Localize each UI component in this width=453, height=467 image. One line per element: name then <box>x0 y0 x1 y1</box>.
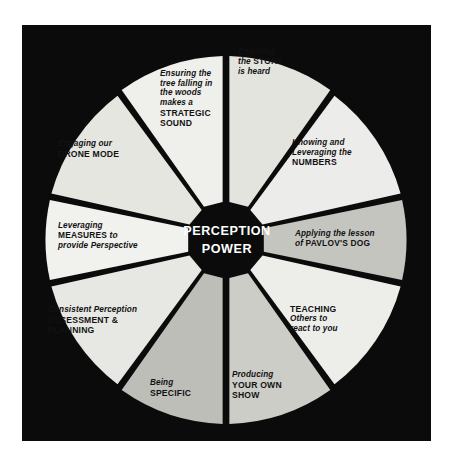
label-assessment-planning-line2: ASSESSMENT & <box>48 315 158 325</box>
label-specific-line1: Being <box>150 378 224 388</box>
label-strategic-sound-line1: Ensuring the <box>160 69 236 79</box>
label-your-own-show-line1: Producing <box>232 370 308 380</box>
label-teaching-line1: TEACHING <box>290 304 370 314</box>
label-assessment-planning-line1: Consistent Perception <box>48 305 158 315</box>
label-story[interactable]: Ensuring the STORY is heard <box>238 47 316 76</box>
perception-power-wheel: PERCEPTION POWER Ensuring the STORY is h… <box>0 0 453 467</box>
label-numbers[interactable]: Knowing and Leveraging the NUMBERS <box>292 138 382 167</box>
label-measures[interactable]: Leveraging MEASURES to provide Perspecti… <box>58 221 168 250</box>
label-drone-mode-line1: Engaging our <box>58 139 152 149</box>
diagram-canvas: PERCEPTION POWER Ensuring the STORY is h… <box>0 0 453 467</box>
label-drone-mode[interactable]: Engaging our DRONE MODE <box>58 139 152 159</box>
label-strategic-sound-line4: makes a <box>160 98 236 108</box>
label-specific-line2: SPECIFIC <box>150 388 224 398</box>
label-numbers-line3: NUMBERS <box>292 157 382 167</box>
label-strategic-sound-line6: SOUND <box>160 118 236 128</box>
label-drone-mode-line2: DRONE MODE <box>58 149 152 159</box>
label-your-own-show-line2: YOUR OWN <box>232 380 308 390</box>
wheel-center-title: PERCEPTION POWER <box>161 222 293 259</box>
label-strategic-sound-line2: tree falling in <box>160 79 236 89</box>
label-teaching-line2: Others to <box>290 314 370 324</box>
label-numbers-line1: Knowing and <box>292 138 382 148</box>
label-story-line2: the STORY <box>238 57 316 67</box>
label-measures-line2: MEASURES to <box>58 231 168 241</box>
label-assessment-planning[interactable]: Consistent Perception ASSESSMENT & PLANN… <box>48 305 158 335</box>
center-title-line1: PERCEPTION <box>161 222 293 240</box>
label-pavlovs-dog-line2: of PAVLOV'S DOG <box>295 239 399 249</box>
label-strategic-sound-line3: the woods <box>160 88 236 98</box>
label-measures-line3: provide Perspective <box>58 241 168 251</box>
label-teaching-line3: react to you <box>290 324 370 334</box>
label-strategic-sound-line5: STRATEGIC <box>160 108 236 118</box>
label-assessment-planning-line3: PLANNING <box>48 325 158 335</box>
label-pavlovs-dog[interactable]: Applying the lesson of PAVLOV'S DOG <box>295 229 399 249</box>
label-numbers-line2: Leveraging the <box>292 148 382 158</box>
label-your-own-show[interactable]: Producing YOUR OWN SHOW <box>232 370 308 400</box>
label-your-own-show-line3: SHOW <box>232 390 308 400</box>
label-story-line3: is heard <box>238 67 316 77</box>
label-strategic-sound[interactable]: Ensuring the tree falling in the woods m… <box>160 69 236 128</box>
center-title-line2: POWER <box>161 240 293 258</box>
label-teaching[interactable]: TEACHING Others to react to you <box>290 304 370 333</box>
label-specific[interactable]: Being SPECIFIC <box>150 378 224 398</box>
